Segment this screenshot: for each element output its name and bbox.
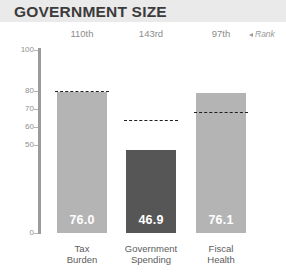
y-tick-label: 50 — [12, 140, 34, 149]
bar-value-tax-burden: 76.0 — [57, 213, 107, 227]
left-triangle-icon — [249, 33, 253, 37]
y-tick-mark — [34, 127, 38, 128]
y-tick-mark — [34, 145, 38, 146]
y-tick-label: 60 — [12, 122, 34, 131]
government-size-chart-panel: GOVERNMENT SIZE 110th143rd97th Rank 1008… — [0, 0, 286, 278]
y-tick-label: 70 — [12, 104, 34, 113]
bar-value-government-spending: 46.9 — [126, 213, 176, 227]
y-tick-label: 0 — [12, 228, 34, 237]
bar-fiscal-health[interactable]: 76.1 — [196, 93, 246, 233]
rank-label-government-spending: 143rd — [126, 28, 176, 39]
average-dash-line-government-spending — [124, 120, 178, 121]
bar-value-fiscal-health: 76.1 — [196, 213, 246, 227]
category-label-fiscal-health: Fiscal Health — [184, 243, 258, 265]
plot-area: 100807060500 76.046.976.1 — [0, 45, 286, 240]
y-tick-mark — [34, 50, 38, 51]
y-tick-label: 100 — [12, 45, 34, 54]
y-tick-mark — [34, 91, 38, 92]
category-label-government-spending: Government Spending — [114, 243, 188, 265]
y-axis-spine — [38, 48, 41, 234]
bar-government-spending[interactable]: 46.9 — [126, 150, 176, 233]
average-dash-line-fiscal-health — [194, 112, 248, 113]
y-tick-mark — [34, 109, 38, 110]
rank-label-fiscal-health: 97th — [196, 28, 246, 39]
page-title: GOVERNMENT SIZE — [14, 3, 167, 21]
rank-legend-label: Rank — [255, 29, 275, 39]
y-tick-mark — [34, 233, 38, 234]
category-label-tax-burden: Tax Burden — [45, 243, 119, 265]
y-tick-label: 80 — [12, 86, 34, 95]
bar-tax-burden[interactable]: 76.0 — [57, 92, 107, 233]
rank-label-tax-burden: 110th — [57, 28, 107, 39]
average-dash-line-tax-burden — [55, 91, 109, 92]
